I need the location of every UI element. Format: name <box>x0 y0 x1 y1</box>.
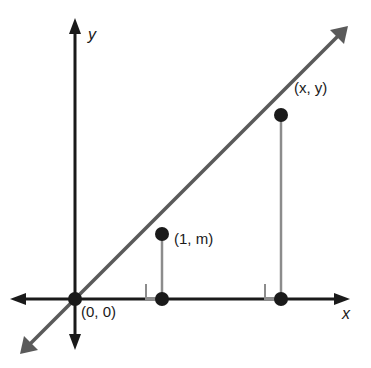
point-slope <box>155 227 169 241</box>
line-y-equals-mx <box>20 26 348 354</box>
y-axis-label: y <box>88 26 96 44</box>
point-origin <box>68 292 82 306</box>
x-axis-label: x <box>342 305 350 323</box>
point-foot-slope <box>155 292 169 306</box>
point-foot-general <box>274 292 288 306</box>
point-label-origin: (0, 0) <box>81 303 116 320</box>
x-axis <box>10 293 350 305</box>
point-label-slope: (1, m) <box>174 230 213 247</box>
point-general <box>274 108 288 122</box>
coordinate-plane-figure <box>0 0 371 368</box>
point-label-general: (x, y) <box>294 79 327 96</box>
